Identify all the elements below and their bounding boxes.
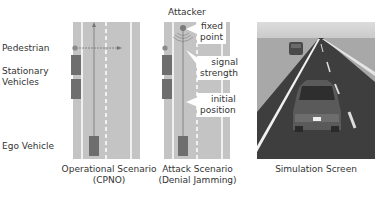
attack-caption-line1: Attack Scenario (150, 164, 245, 175)
operational-road (71, 22, 140, 159)
stationary-vehicles-label-line1: Stationary (2, 66, 49, 77)
callout-text: fixed (200, 21, 223, 32)
callout-text: position (200, 105, 236, 116)
simulation-caption: Simulation Screen (257, 164, 375, 175)
distant-vehicle-window (291, 44, 301, 48)
callout-text: strength (200, 68, 238, 79)
stationary-vehicles-label-line2: Vehicles (2, 77, 39, 88)
callout-text: initial (200, 94, 236, 105)
stationary-vehicle (71, 55, 81, 75)
simulation-screenshot (257, 22, 375, 159)
stationary-vehicle (162, 55, 172, 75)
simulation-scene (257, 22, 375, 159)
callout-text: point (200, 32, 223, 43)
attacker-label: Attacker (168, 7, 206, 18)
pedestrian-marker (162, 45, 167, 50)
ego-car (293, 80, 341, 132)
sky (257, 22, 375, 40)
ego-vehicle-label: Ego Vehicle (2, 141, 54, 152)
initial-position-callout: initial position (197, 93, 239, 117)
operational-caption-line1: Operational Scenario (56, 164, 162, 175)
attack-caption-line2: (Denial Jamming) (150, 175, 245, 186)
operational-caption-line2: (CPNO) (56, 175, 162, 186)
pedestrian-marker (72, 45, 77, 50)
fixed-point-callout: fixed point (197, 20, 226, 44)
pedestrian-label: Pedestrian (2, 43, 50, 54)
stationary-vehicle (162, 79, 172, 99)
ego-vehicle (89, 136, 99, 156)
signal-strength-callout: signal strength (197, 56, 241, 80)
distant-vehicle (289, 42, 303, 55)
callout-text: signal (200, 57, 238, 68)
stationary-vehicle (71, 79, 81, 99)
ego-vehicle (178, 136, 188, 156)
road-surface (73, 22, 140, 159)
